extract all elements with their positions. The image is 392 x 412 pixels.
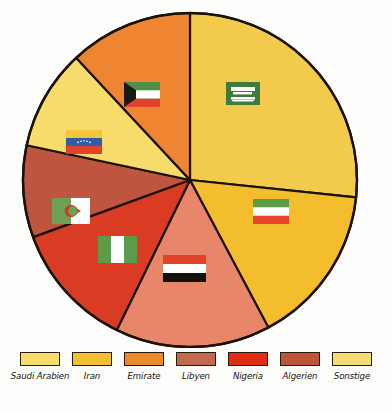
legend-label: Emirate — [128, 371, 161, 381]
legend-item-libyen[interactable]: Libyen — [170, 352, 222, 381]
yemen-flag — [163, 255, 206, 282]
legend-label: Libyen — [182, 371, 210, 381]
legend-item-nigeria[interactable]: Nigeria — [222, 352, 274, 381]
saudi-arabia-flag — [226, 82, 260, 105]
legend-item-iran[interactable]: Iran — [66, 352, 118, 381]
legend-label: Algerien — [283, 371, 318, 381]
algeria-flag — [52, 198, 90, 224]
legend-label: Sonstige — [334, 371, 370, 381]
chart-legend: Saudi ArabienIranEmirateLibyenNigeriaAlg… — [0, 352, 392, 410]
pie-chart-svg — [0, 0, 392, 348]
kuwait-flag — [124, 82, 160, 107]
legend-swatch — [228, 352, 268, 366]
legend-item-sonstige[interactable]: Sonstige — [326, 352, 378, 381]
legend-swatch — [124, 352, 164, 366]
legend-swatch — [72, 352, 112, 366]
legend-swatch — [176, 352, 216, 366]
legend-item-algerien[interactable]: Algerien — [274, 352, 326, 381]
legend-swatch — [332, 352, 372, 366]
legend-label: Nigeria — [233, 371, 263, 381]
venezuela-flag — [66, 130, 102, 154]
legend-item-emirate[interactable]: Emirate — [118, 352, 170, 381]
nigeria-flag — [98, 236, 137, 263]
pie-slice-saudi-arabien[interactable] — [190, 13, 357, 197]
legend-swatch — [20, 352, 60, 366]
legend-label: Iran — [84, 371, 100, 381]
legend-swatch — [280, 352, 320, 366]
iran-flag — [253, 199, 289, 224]
pie-chart-figure — [0, 0, 392, 348]
pie-chart-page: Saudi ArabienIranEmirateLibyenNigeriaAlg… — [0, 0, 392, 412]
pie-slices-group — [23, 13, 357, 347]
legend-label: Saudi Arabien — [11, 371, 70, 381]
legend-item-saudi-arabien[interactable]: Saudi Arabien — [14, 352, 66, 381]
